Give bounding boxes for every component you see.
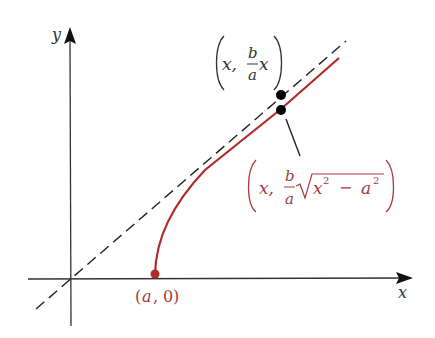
svg-text:(: ( bbox=[135, 287, 141, 306]
svg-text:−: − bbox=[339, 178, 352, 197]
svg-text:x,: x, bbox=[222, 54, 237, 74]
svg-text:a: a bbox=[361, 178, 371, 198]
vertex-point bbox=[151, 270, 160, 279]
svg-text:,: , bbox=[153, 287, 158, 306]
svg-text:x: x bbox=[313, 178, 323, 198]
svg-text:a: a bbox=[248, 66, 257, 84]
curve-point bbox=[276, 105, 286, 115]
leader-line bbox=[286, 119, 300, 156]
svg-text:2: 2 bbox=[373, 175, 379, 186]
x-axis-label: x bbox=[398, 283, 407, 302]
svg-text:b: b bbox=[285, 167, 295, 185]
asymptote-line bbox=[36, 41, 346, 309]
svg-text:a: a bbox=[142, 287, 152, 306]
x-axis bbox=[28, 272, 413, 284]
y-axis-label: y bbox=[51, 25, 62, 44]
hyperbola-diagram: y x ( a , 0 ) x, b a x x, b a x 2 − a 2 bbox=[0, 0, 435, 338]
svg-text:2: 2 bbox=[323, 175, 329, 186]
svg-text:x: x bbox=[259, 54, 269, 74]
svg-text:x,: x, bbox=[259, 178, 274, 198]
curve-point-label: x, b a x 2 − a 2 bbox=[249, 160, 394, 212]
hyperbola-branch bbox=[155, 58, 339, 274]
asymptote-point bbox=[276, 90, 286, 100]
asymptote-point-label: x, b a x bbox=[217, 36, 282, 90]
svg-text:): ) bbox=[173, 287, 179, 306]
vertex-label: ( a , 0 ) bbox=[135, 287, 179, 306]
svg-text:0: 0 bbox=[163, 287, 173, 306]
y-axis bbox=[64, 27, 76, 326]
svg-text:b: b bbox=[248, 44, 258, 62]
svg-text:a: a bbox=[285, 190, 294, 208]
